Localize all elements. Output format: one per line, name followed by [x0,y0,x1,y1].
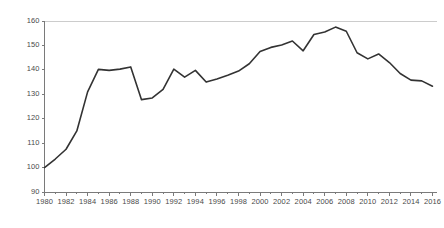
y-axis-tick-label: 130 [14,90,40,98]
y-axis-tick-label: 140 [14,65,40,73]
y-axis-tick-label: 120 [14,114,40,122]
data-line-series-0 [45,27,433,167]
y-axis-tick-label: 100 [14,163,40,171]
y-axis-tick-label: 150 [14,41,40,49]
y-axis-tick-label: 160 [14,17,40,25]
y-axis-tick-label: 90 [14,188,40,196]
x-axis-tick-label: 2016 [420,198,444,206]
chart-plot-area [0,0,444,228]
y-axis-tick-label: 110 [14,139,40,147]
line-chart: 90100110120130140150160 1980198219841986… [0,0,444,228]
